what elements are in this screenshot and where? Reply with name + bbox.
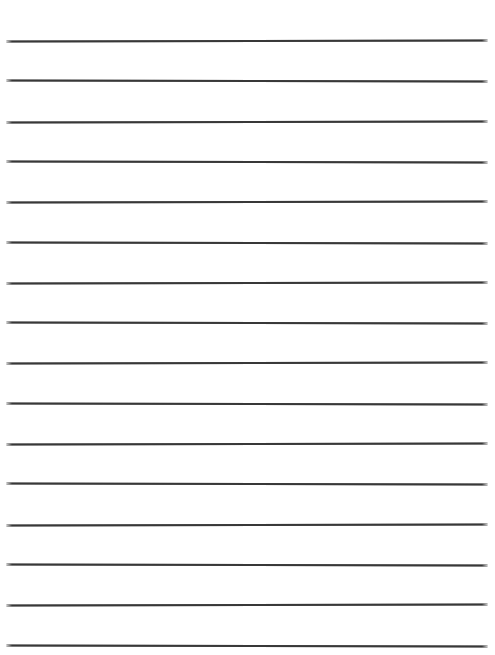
ruled-line [6, 362, 488, 365]
ruled-line [6, 604, 488, 607]
ruled-line [6, 644, 488, 647]
ruled-line [6, 402, 488, 405]
ruled-line [6, 241, 488, 244]
ruled-line [6, 483, 488, 486]
ruled-paper-page [0, 0, 495, 655]
ruled-line [6, 80, 488, 83]
ruled-line [6, 281, 488, 284]
ruled-line [6, 322, 488, 325]
ruled-line [6, 201, 488, 204]
ruled-line [6, 120, 488, 123]
ruled-line [6, 39, 488, 42]
ruled-line [6, 442, 488, 445]
ruled-line [6, 563, 488, 566]
ruled-line [6, 523, 488, 526]
ruled-line [6, 160, 488, 163]
